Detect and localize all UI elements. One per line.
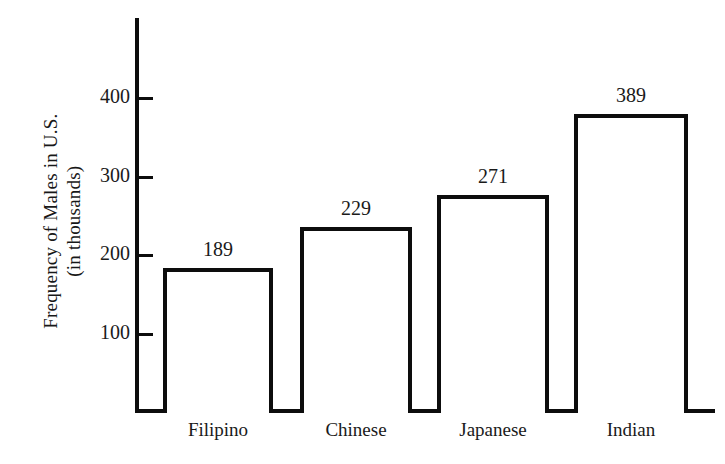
x-tick-label-filipino: Filipino [153, 419, 283, 441]
bar-value-filipino: 189 [163, 238, 273, 261]
y-tick-label-100: 100 [78, 321, 130, 344]
bar-filipino [163, 268, 273, 413]
bar-value-indian: 389 [574, 84, 688, 107]
y-tick-label-400: 400 [78, 85, 130, 108]
bar-japanese [437, 195, 549, 413]
bar-value-chinese: 229 [300, 197, 412, 220]
y-tick-label-200: 200 [78, 242, 130, 265]
y-tick-label-300: 300 [78, 164, 130, 187]
bar-chinese [300, 227, 412, 413]
y-tick-mark-400 [139, 97, 153, 100]
y-axis-title-line-1: Frequency of Males in U.S. [39, 71, 62, 371]
x-tick-label-indian: Indian [566, 419, 696, 441]
x-tick-label-chinese: Chinese [291, 419, 421, 441]
bar-indian [574, 114, 688, 413]
x-tick-label-japanese: Japanese [428, 419, 558, 441]
y-axis-line [135, 18, 139, 413]
bar-value-japanese: 271 [437, 165, 549, 188]
y-tick-mark-300 [139, 176, 153, 179]
y-tick-mark-100 [139, 333, 153, 336]
y-tick-mark-200 [139, 254, 153, 257]
bar-chart: Frequency of Males in U.S. (in thousands… [0, 0, 725, 464]
